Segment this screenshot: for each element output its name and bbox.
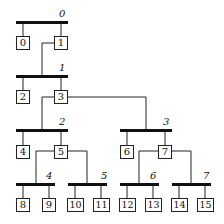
box-13: 13 xyxy=(145,198,162,212)
bar-label-7: 7 xyxy=(203,171,209,181)
bar-label-1: 1 xyxy=(59,63,65,73)
bar-label-6: 6 xyxy=(150,171,156,181)
bar-6 xyxy=(120,183,159,186)
box-4: 4 xyxy=(16,145,30,159)
bar-0 xyxy=(16,21,68,24)
bar-label-3: 3 xyxy=(163,117,169,127)
bar-1 xyxy=(16,75,68,78)
box-5: 5 xyxy=(54,145,68,159)
tree-diagram: 0 1 2 3 4 5 6 7 0 1 2 3 4 5 6 7 8 9 10 1… xyxy=(0,0,224,224)
bar-label-5: 5 xyxy=(101,171,107,181)
box-11: 11 xyxy=(93,198,110,212)
box-0: 0 xyxy=(16,36,30,50)
box-15: 15 xyxy=(197,198,214,212)
bar-label-4: 4 xyxy=(46,171,52,181)
box-1: 1 xyxy=(54,36,68,50)
box-10: 10 xyxy=(67,198,84,212)
bar-7 xyxy=(172,183,211,186)
box-7: 7 xyxy=(158,145,172,159)
bar-label-0: 0 xyxy=(59,9,65,19)
box-14: 14 xyxy=(171,198,188,212)
box-12: 12 xyxy=(119,198,136,212)
box-2: 2 xyxy=(16,90,30,104)
bar-3 xyxy=(120,129,172,132)
bar-4 xyxy=(16,183,55,186)
box-6: 6 xyxy=(120,145,134,159)
bar-label-2: 2 xyxy=(59,117,65,127)
box-9: 9 xyxy=(42,198,56,212)
bar-2 xyxy=(16,129,68,132)
bar-5 xyxy=(68,183,107,186)
connector-lines xyxy=(0,0,224,224)
box-3: 3 xyxy=(54,90,68,104)
box-8: 8 xyxy=(16,198,30,212)
